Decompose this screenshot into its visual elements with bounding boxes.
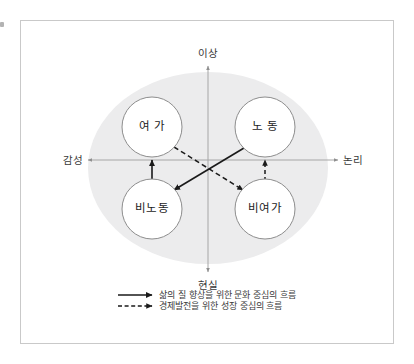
node-non-leisure[interactable]: [235, 179, 295, 239]
diagram-page: 여 가 노 동 비노동 비여가 이상 현실 감성 논리 삶의 질 향상을 위한 …: [0, 0, 414, 364]
node-leisure[interactable]: [122, 97, 182, 157]
node-non-labor[interactable]: [122, 179, 182, 239]
node-labor[interactable]: [235, 97, 295, 157]
diagram-canvas: [0, 0, 414, 364]
